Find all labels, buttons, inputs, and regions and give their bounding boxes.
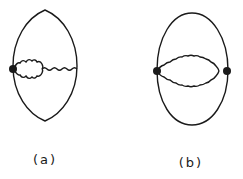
- wavy-line-lower-b: [157, 71, 219, 87]
- wavy-bubble-upper-a: [14, 60, 43, 69]
- wavy-bubble-lower-a: [14, 69, 43, 78]
- panel-label-a: (a): [33, 152, 57, 167]
- panel-a: [9, 10, 77, 121]
- fermion-loop-a: [13, 10, 77, 121]
- vertex-dot-left-b: [153, 67, 161, 75]
- panel-label-b: (b): [179, 155, 203, 170]
- wavy-line-upper-b: [157, 55, 219, 71]
- vertex-dot-right-b: [223, 67, 231, 75]
- wavy-line-a: [42, 68, 77, 71]
- panel-b: [153, 13, 231, 125]
- vertex-dot-a: [9, 65, 17, 73]
- fermion-loop-b: [157, 13, 228, 125]
